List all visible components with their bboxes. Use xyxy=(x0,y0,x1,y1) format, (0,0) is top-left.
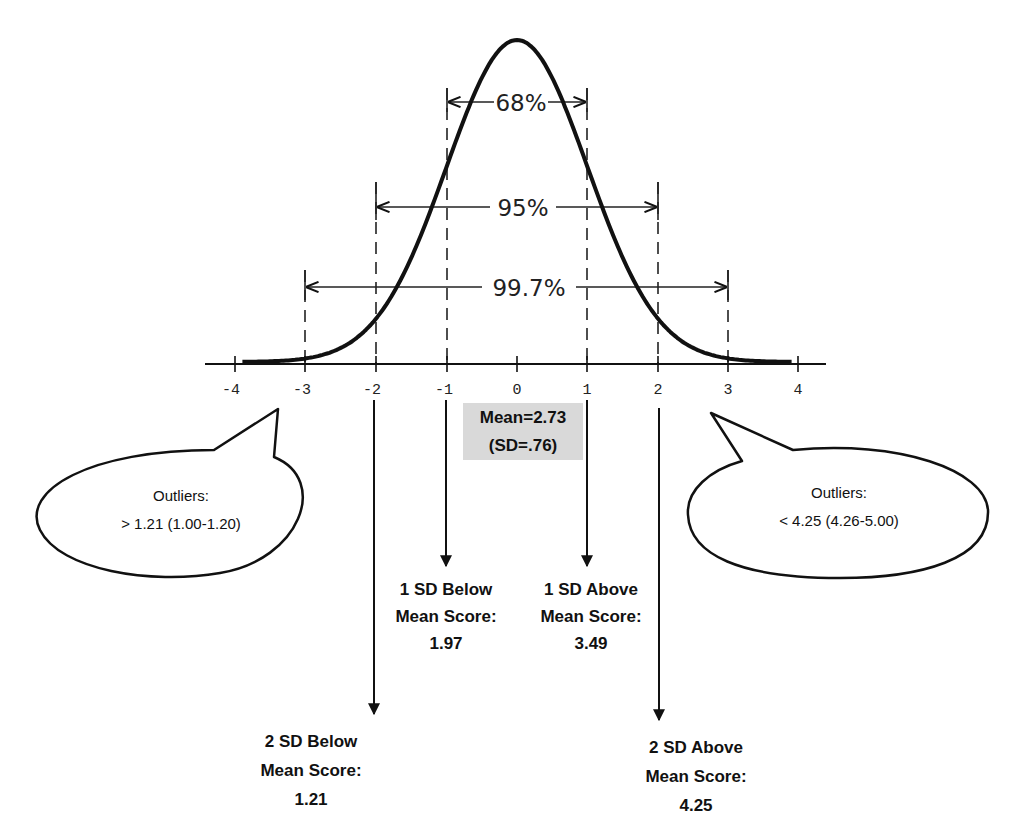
label-1sd-above: 1 SD Above Mean Score: 3.49 xyxy=(540,580,641,653)
interval-997: 99.7% xyxy=(307,275,726,301)
tick-label: -2 xyxy=(363,382,381,399)
sd-dashed-lines xyxy=(305,88,728,364)
tick-label: -1 xyxy=(435,382,453,399)
svg-text:1 SD Above: 1 SD Above xyxy=(544,580,638,599)
interval-caps xyxy=(305,88,728,300)
tick-label: 4 xyxy=(793,382,802,399)
interval-95-label: 95% xyxy=(497,195,548,221)
svg-text:Mean Score:: Mean Score: xyxy=(540,607,641,626)
label-1sd-below: 1 SD Below Mean Score: 1.97 xyxy=(395,580,496,653)
label-2sd-below: 2 SD Below Mean Score: 1.21 xyxy=(260,732,361,809)
mean-box: Mean=2.73 (SD=.76) xyxy=(463,403,583,460)
svg-text:2 SD Below: 2 SD Below xyxy=(265,732,358,751)
x-axis: -4 -3 -2 -1 0 1 2 3 4 xyxy=(205,356,826,399)
tick-label: -4 xyxy=(222,382,240,399)
normal-distribution-diagram: 68% 95% 99.7% -4 -3 -2 -1 0 1 2 3 xyxy=(0,0,1022,840)
svg-text:Mean Score:: Mean Score: xyxy=(645,767,746,786)
svg-text:1.21: 1.21 xyxy=(294,790,327,809)
svg-text:Mean Score:: Mean Score: xyxy=(260,761,361,780)
callout-right-outliers: Outliers: < 4.25 (4.26-5.00) xyxy=(688,413,988,578)
interval-68-label: 68% xyxy=(495,90,546,116)
label-2sd-above: 2 SD Above Mean Score: 4.25 xyxy=(645,738,746,815)
tick-label: 0 xyxy=(512,382,521,399)
svg-text:1 SD Below: 1 SD Below xyxy=(400,580,493,599)
sd-value: (SD=.76) xyxy=(489,436,558,455)
callout-right-value: < 4.25 (4.26-5.00) xyxy=(779,512,899,529)
interval-997-label: 99.7% xyxy=(492,275,565,301)
callout-right-title: Outliers: xyxy=(811,484,867,501)
callout-left-title: Outliers: xyxy=(153,487,209,504)
svg-text:3.49: 3.49 xyxy=(574,634,607,653)
tick-label: 1 xyxy=(582,382,591,399)
tick-label: 3 xyxy=(723,382,732,399)
svg-text:2 SD Above: 2 SD Above xyxy=(649,738,743,757)
interval-95: 95% xyxy=(378,195,656,221)
callout-left-value: > 1.21 (1.00-1.20) xyxy=(121,515,241,532)
svg-text:Mean Score:: Mean Score: xyxy=(395,607,496,626)
svg-text:4.25: 4.25 xyxy=(679,796,712,815)
callout-left-outliers: Outliers: > 1.21 (1.00-1.20) xyxy=(37,409,303,577)
svg-text:1.97: 1.97 xyxy=(429,634,462,653)
mean-value: Mean=2.73 xyxy=(480,408,566,427)
tick-label: -3 xyxy=(293,382,311,399)
tick-label: 2 xyxy=(653,382,662,399)
